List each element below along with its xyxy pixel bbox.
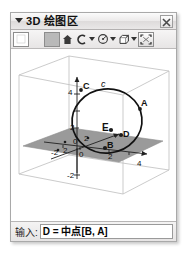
x-axis-label-neg2: -2 xyxy=(51,148,59,157)
home-icon xyxy=(62,34,73,45)
z-axis-label-neg2: -2 xyxy=(67,171,75,180)
box-bottom-face xyxy=(19,155,169,194)
gray-square-icon xyxy=(47,34,57,44)
axes xyxy=(44,77,147,179)
curve-c-label: c xyxy=(101,79,106,89)
input-value: D = 中点[B, A] xyxy=(43,225,108,238)
solid-tool-button[interactable] xyxy=(117,32,137,47)
white-square-icon xyxy=(16,34,26,44)
point-D-label: D xyxy=(123,129,130,139)
z-axis-label-2: 2 xyxy=(70,123,75,132)
view-fit-tool-button[interactable] xyxy=(138,32,154,47)
close-button[interactable] xyxy=(160,15,173,28)
box-top-face xyxy=(19,56,169,95)
move-tool-button[interactable] xyxy=(13,32,29,47)
input-field[interactable]: D = 中点[B, A] xyxy=(40,224,173,239)
line-tool-button[interactable] xyxy=(61,32,74,47)
y-axis-label-upper-2: 2 xyxy=(84,134,89,143)
chevron-down-icon[interactable] xyxy=(89,37,95,41)
point-B-label: B xyxy=(107,140,114,150)
graphics-3d-window: 3D 绘图区 xyxy=(10,12,177,242)
title-bar: 3D 绘图区 xyxy=(11,13,176,30)
close-icon xyxy=(162,18,171,27)
point-E-label: E xyxy=(102,122,109,133)
chevron-down-icon[interactable] xyxy=(131,37,137,41)
input-label: 输入: xyxy=(15,224,38,239)
scene-3d: C c A E D B 4 2 -2 -2 2 0 2 4 2 0 xyxy=(11,49,176,221)
point-tool-button[interactable] xyxy=(44,32,60,47)
cube-icon xyxy=(118,34,130,45)
chevron-down-icon[interactable] xyxy=(110,37,116,41)
circle-dot-icon xyxy=(97,33,109,45)
arc-icon xyxy=(76,34,87,45)
point-A-label: A xyxy=(141,98,148,108)
circle-tool-button[interactable] xyxy=(75,32,95,47)
y-axis-label-2: 2 xyxy=(63,146,68,155)
graphics-3d-canvas[interactable]: C c A E D B 4 2 -2 -2 2 0 2 4 2 0 xyxy=(11,49,176,221)
point-C-label: C xyxy=(83,81,90,91)
bounding-box xyxy=(19,56,169,194)
toolbar xyxy=(11,30,176,49)
x-axis-label-4: 4 xyxy=(137,159,142,168)
z-axis-label-4: 4 xyxy=(68,88,73,97)
triangle-down-icon[interactable] xyxy=(15,18,23,23)
toolbar-separator xyxy=(30,32,43,47)
x-axis-label-2: 2 xyxy=(108,152,113,161)
input-bar: 输入: D = 中点[B, A] xyxy=(11,221,176,241)
origin-label: 0 xyxy=(79,150,84,159)
fit-view-icon xyxy=(140,34,152,45)
origin-upper-label: 0 xyxy=(73,137,78,146)
sphere-tool-button[interactable] xyxy=(96,32,116,47)
point-E-dot xyxy=(109,128,113,132)
xy-plane xyxy=(23,128,163,162)
window-title: 3D 绘图区 xyxy=(26,14,78,29)
